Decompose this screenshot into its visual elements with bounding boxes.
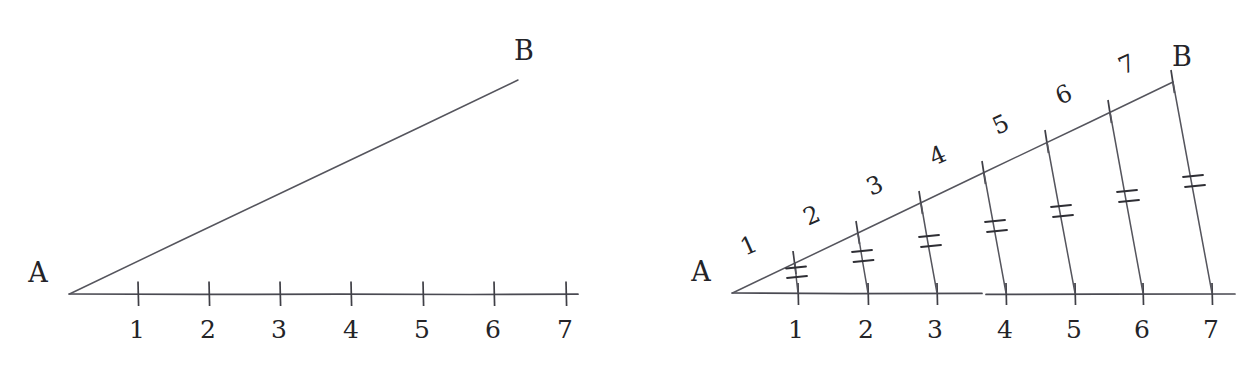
- transversal-7: [1173, 82, 1212, 293]
- right-baseline-tick-2: [868, 283, 869, 305]
- right-ray-ab: [733, 82, 1174, 293]
- right-baseline-number-3: 3: [927, 315, 943, 344]
- hash-mark-6a: [1117, 190, 1137, 192]
- left-baseline-tick-5: [423, 282, 424, 307]
- transversal-5: [1047, 142, 1075, 293]
- hash-mark-3a: [919, 235, 939, 237]
- right-baseline-tick-5: [1075, 283, 1076, 305]
- left-baseline-tick-2: [209, 282, 210, 307]
- right-baseline-number-1: 1: [788, 315, 804, 344]
- hash-mark-2a: [852, 250, 872, 252]
- hash-mark-1b: [787, 276, 807, 278]
- right-baseline-number-4: 4: [997, 315, 1013, 344]
- transversal-line-4: [984, 173, 1006, 293]
- left-baseline: [69, 294, 578, 295]
- left-baseline-number-4: 4: [343, 315, 359, 344]
- transversal-1: [786, 263, 807, 293]
- transversal-line-5: [1047, 142, 1075, 293]
- right-ray-number-1: 1: [736, 230, 761, 262]
- left-baseline-number-1: 1: [129, 315, 145, 344]
- transversal-line-7: [1173, 82, 1212, 293]
- hash-mark-2b: [854, 260, 874, 262]
- right-ray-number-7: 7: [1114, 49, 1139, 81]
- transversal-3: [919, 203, 941, 293]
- transversal-line-3: [921, 203, 937, 293]
- left-baseline-number-3: 3: [271, 315, 287, 344]
- left-baseline-tick-1: [138, 282, 139, 307]
- hash-mark-4a: [985, 220, 1005, 222]
- right-panel: A B 1 2 3 4 5 6 7 1 2 3 4 5 6 7: [690, 41, 1235, 344]
- hash-mark-7b: [1185, 185, 1205, 187]
- geometry-diagram: A B 1 2 3 4 5 6 7: [0, 0, 1256, 388]
- transversal-line-2: [858, 233, 868, 293]
- left-baseline-number-5: 5: [414, 315, 430, 344]
- left-ray-ab: [70, 80, 519, 294]
- right-ray-number-6: 6: [1051, 79, 1076, 111]
- left-panel: A B 1 2 3 4 5 6 7: [27, 35, 578, 344]
- hash-mark-5b: [1053, 215, 1073, 217]
- right-baseline-tick-7: [1212, 283, 1213, 305]
- right-baseline-tick-6: [1143, 283, 1144, 305]
- right-baseline-tick-1: [798, 283, 799, 305]
- right-baseline-number-7: 7: [1203, 315, 1219, 344]
- right-ray-number-3: 3: [862, 170, 887, 202]
- figure-root: A B 1 2 3 4 5 6 7: [0, 0, 1256, 388]
- transversal-line-6: [1110, 112, 1143, 293]
- right-ray-number-2: 2: [799, 200, 824, 232]
- right-ray-number-4: 4: [925, 140, 950, 172]
- left-vertex-label-a: A: [27, 257, 48, 288]
- right-ray-endpoint-label-b: B: [1172, 41, 1192, 72]
- right-baseline-left-part: [732, 293, 982, 294]
- left-baseline-tick-6: [494, 282, 495, 307]
- hash-mark-5a: [1051, 205, 1071, 207]
- hash-mark-7a: [1183, 175, 1203, 177]
- left-baseline-number-6: 6: [485, 315, 501, 344]
- right-baseline-number-6: 6: [1134, 315, 1150, 344]
- right-vertex-label-a: A: [690, 256, 711, 287]
- transversal-2: [852, 233, 874, 293]
- left-ray-endpoint-label-b: B: [514, 35, 534, 66]
- right-baseline-number-2: 2: [858, 315, 874, 344]
- left-baseline-number-7: 7: [557, 315, 573, 344]
- right-ray-number-5: 5: [988, 109, 1013, 141]
- left-baseline-tick-7: [566, 282, 567, 307]
- left-baseline-number-2: 2: [200, 315, 216, 344]
- transversal-4: [984, 173, 1007, 293]
- hash-mark-6b: [1119, 200, 1139, 202]
- right-baseline-tick-4: [1006, 283, 1007, 305]
- hash-mark-3b: [921, 245, 941, 247]
- transversal-6: [1110, 112, 1143, 293]
- right-baseline-tick-3: [937, 283, 938, 305]
- right-baseline-number-5: 5: [1066, 315, 1082, 344]
- left-baseline-tick-3: [280, 282, 281, 307]
- left-baseline-tick-4: [351, 282, 352, 307]
- hash-mark-4b: [987, 230, 1007, 232]
